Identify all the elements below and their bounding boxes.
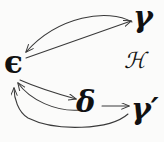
- node-label-epsilon: ϵ: [4, 47, 23, 78]
- edge-delta-to-epsilon: [18, 83, 80, 110]
- node-label-delta: δ: [76, 88, 95, 117]
- node-label-gamma-prime: γ′: [131, 94, 159, 124]
- edge-epsilon-to-gamma: [26, 21, 131, 58]
- diagram-canvas: ϵ γ δ γ′ ℋ: [0, 0, 164, 142]
- edge-gamma-to-epsilon: [26, 15, 132, 52]
- edge-gamma-prime-to-epsilon: [14, 88, 128, 127]
- node-label-gamma: γ: [133, 2, 153, 32]
- edge-epsilon-to-delta: [20, 80, 76, 99]
- node-label-script-h: ℋ: [124, 50, 146, 72]
